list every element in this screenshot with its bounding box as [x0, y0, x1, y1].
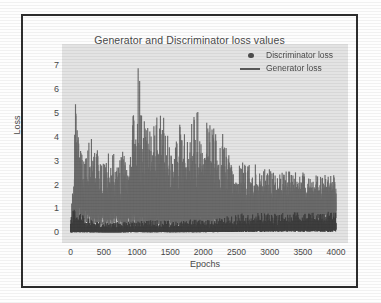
- legend-label-discriminator: Discriminator loss: [266, 49, 333, 61]
- y-axis-ticks: 01234567: [33, 44, 59, 243]
- y-tick-label: 7: [37, 60, 59, 70]
- x-tick-label: 4000: [327, 247, 346, 257]
- y-tick-label: 5: [37, 108, 59, 118]
- y-axis-label: Loss: [12, 115, 22, 134]
- y-tick-label: 3: [37, 156, 59, 166]
- legend-line-marker-icon: [240, 68, 260, 70]
- x-tick-label: 3500: [293, 247, 312, 257]
- x-tick-label: 2500: [227, 247, 246, 257]
- x-tick-label: 500: [97, 247, 111, 257]
- y-tick-label: 2: [37, 180, 59, 190]
- x-tick-label: 1500: [161, 247, 180, 257]
- legend-label-generator: Generator loss: [266, 62, 322, 74]
- legend-item-discriminator: Discriminator loss: [232, 49, 344, 61]
- y-tick-label: 0: [37, 227, 59, 237]
- x-tick-label: 2000: [194, 247, 213, 257]
- x-tick-label: 0: [68, 247, 73, 257]
- y-tick-label: 4: [37, 132, 59, 142]
- y-tick-label: 1: [37, 203, 59, 213]
- x-axis-label: Epochs: [62, 259, 348, 269]
- legend-item-generator: Generator loss: [232, 62, 344, 74]
- figure-frame: Generator and Discriminator loss values …: [21, 14, 358, 288]
- legend-dot-marker-icon: [248, 53, 254, 59]
- figure-page: Generator and Discriminator loss values …: [0, 0, 381, 303]
- x-tick-label: 1000: [128, 247, 147, 257]
- x-tick-label: 3000: [260, 247, 279, 257]
- chart-legend: Discriminator loss Generator loss: [232, 49, 344, 75]
- y-tick-label: 6: [37, 84, 59, 94]
